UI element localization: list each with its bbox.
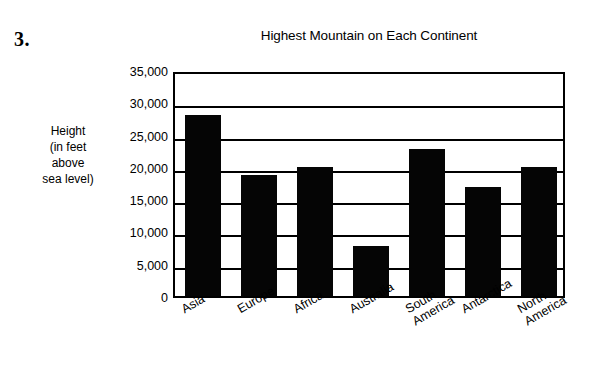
question-number: 3. bbox=[14, 28, 30, 51]
gridline bbox=[175, 139, 563, 141]
gridline bbox=[175, 235, 563, 237]
y-axis-tick-label: 15,000 bbox=[98, 195, 168, 207]
x-axis-tick-labels: AsiaEuropeAfricaAustraliaSouthAmericaAnt… bbox=[173, 298, 565, 390]
bar bbox=[409, 149, 445, 296]
y-axis-tick-label: 35,000 bbox=[98, 66, 168, 78]
y-axis-tick-label: 25,000 bbox=[98, 131, 168, 143]
gridline bbox=[175, 171, 563, 173]
y-axis-tick-label: 5,000 bbox=[98, 260, 168, 272]
bar bbox=[465, 187, 501, 296]
chart-title: Highest Mountain on Each Continent bbox=[173, 28, 565, 43]
bar bbox=[521, 167, 557, 296]
gridline bbox=[175, 203, 563, 205]
gridline bbox=[175, 106, 563, 108]
bar bbox=[297, 167, 333, 296]
bar bbox=[185, 115, 221, 296]
y-axis-tick-label: 0 bbox=[98, 292, 168, 304]
y-axis-tick-label: 20,000 bbox=[98, 163, 168, 175]
plot-inner bbox=[175, 74, 563, 296]
bar bbox=[241, 175, 277, 296]
y-axis-tick-label: 30,000 bbox=[98, 98, 168, 110]
y-axis-tick-label: 10,000 bbox=[98, 227, 168, 239]
plot-area bbox=[173, 72, 565, 298]
